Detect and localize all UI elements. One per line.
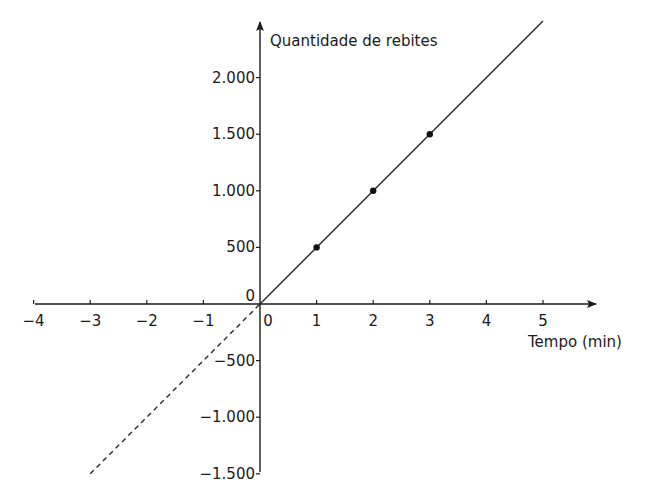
y-tick-label: 2.000	[212, 69, 255, 87]
y-tick-label: 1.500	[212, 125, 255, 143]
y-tick-label: −1.000	[199, 408, 255, 426]
x-tick-label: −2	[136, 312, 158, 330]
y-tick-label: 500	[226, 238, 255, 256]
data-series	[90, 21, 543, 474]
y-tick-label: 1.000	[212, 182, 255, 200]
x-tick-label: 2	[368, 312, 378, 330]
x-tick-label: 3	[425, 312, 435, 330]
x-axis-title: Tempo (min)	[527, 333, 622, 351]
axis-labels: Quantidade de rebites Tempo (min) 0 −4−3…	[23, 32, 622, 483]
y-tick-label: −500	[214, 352, 255, 370]
data-point	[370, 188, 376, 194]
data-point	[427, 131, 433, 137]
x-tick-label: 1	[312, 312, 322, 330]
x-tick-label: 0	[263, 312, 273, 330]
origin-label: 0	[245, 287, 255, 305]
solid-line	[260, 21, 543, 304]
y-axis-title: Quantidade de rebites	[270, 32, 438, 50]
x-tick-label: −4	[23, 312, 45, 330]
line-chart: Quantidade de rebites Tempo (min) 0 −4−3…	[0, 0, 667, 504]
y-tick-label: −1.500	[199, 465, 255, 483]
dashed-extension-line	[90, 304, 260, 474]
x-tick-label: −3	[79, 312, 101, 330]
x-tick-label: −1	[192, 312, 214, 330]
data-point	[313, 244, 319, 250]
x-tick-label: 5	[538, 312, 548, 330]
x-tick-label: 4	[482, 312, 492, 330]
